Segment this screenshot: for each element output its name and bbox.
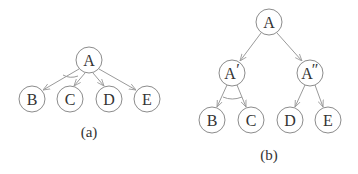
node-a-D: D xyxy=(96,86,122,112)
double-prime-mark: ″ xyxy=(312,61,319,78)
node-b-D: D xyxy=(277,107,303,133)
node-b-A: A xyxy=(256,9,282,35)
edge-b-A-A2 xyxy=(277,33,302,61)
node-a-B: B xyxy=(19,86,45,112)
diagram-a: A B C D E (a) xyxy=(19,47,160,141)
and-or-tree-figure: A B C D E (a) A xyxy=(0,0,358,174)
svg-text:B: B xyxy=(27,91,38,108)
edge-b-A-A1 xyxy=(240,33,261,61)
node-a-C: C xyxy=(57,86,83,112)
diagram-b: A A ′ A ″ B C D E (b) xyxy=(199,9,341,164)
node-b-A-prime: A ′ xyxy=(219,60,245,86)
svg-text:A: A xyxy=(263,14,275,31)
edge-b-A2-E xyxy=(315,85,323,107)
svg-text:E: E xyxy=(323,112,333,129)
caption-b: (b) xyxy=(260,147,278,164)
node-a-E: E xyxy=(134,86,160,112)
svg-text:E: E xyxy=(142,91,152,108)
svg-text:D: D xyxy=(284,112,296,129)
and-arc-b xyxy=(223,97,242,99)
svg-text:A: A xyxy=(83,52,95,69)
node-b-C: C xyxy=(238,107,264,133)
node-b-E: E xyxy=(315,107,341,133)
caption-a: (a) xyxy=(81,124,98,141)
edge-b-A1-C xyxy=(237,85,246,107)
edge-b-A1-B xyxy=(217,85,227,107)
svg-text:B: B xyxy=(207,112,218,129)
svg-text:C: C xyxy=(65,91,76,108)
node-b-B: B xyxy=(199,107,225,133)
svg-text:A: A xyxy=(224,65,236,82)
svg-text:C: C xyxy=(246,112,257,129)
edge-a-A-D xyxy=(93,73,104,86)
prime-mark: ′ xyxy=(236,61,240,78)
node-b-A-double-prime: A ″ xyxy=(297,60,323,86)
edge-a-A-C xyxy=(74,73,85,86)
edge-b-A2-D xyxy=(295,85,305,107)
svg-text:D: D xyxy=(103,91,115,108)
node-a-A: A xyxy=(76,47,102,73)
